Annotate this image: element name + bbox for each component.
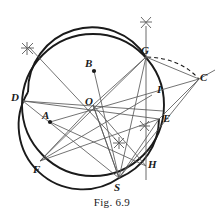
- line-upper-left-ray: [29, 47, 119, 143]
- line-A-C: [50, 79, 199, 122]
- point-label-D: D: [11, 92, 19, 103]
- point-label-O: O: [85, 96, 93, 107]
- point-label-G: G: [141, 45, 149, 56]
- geometry-diagram: [0, 0, 224, 215]
- arc-mark-center-lower: [113, 137, 125, 149]
- line-O-G: [93, 57, 146, 105]
- point-label-F: F: [33, 164, 40, 175]
- figure-caption: Fig. 6.9: [0, 196, 224, 208]
- arc-mark-upper-left: [21, 42, 34, 55]
- point-label-C: C: [200, 72, 207, 83]
- point-label-A: A: [42, 110, 49, 121]
- point-label-S: S: [114, 182, 120, 193]
- figure-6-9: A B C D E F G H I O S Fig. 6.9: [0, 0, 224, 215]
- point-label-I: I: [157, 84, 161, 95]
- point-label-H: H: [148, 159, 157, 170]
- point-label-B: B: [85, 58, 92, 69]
- point-dot-B: [92, 69, 96, 73]
- point-label-E: E: [163, 113, 170, 124]
